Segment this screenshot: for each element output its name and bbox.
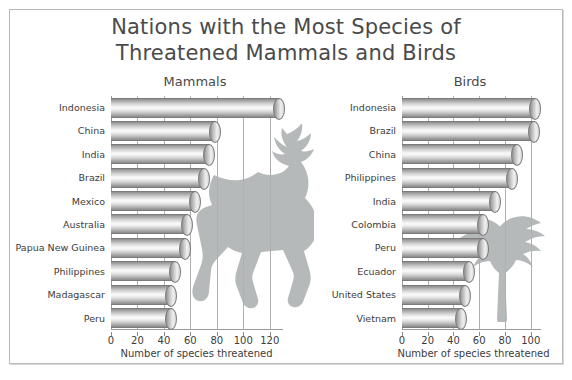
birds-bar [402,121,535,141]
mammals-category-label: Papua New Guinea [10,236,109,259]
birds-panel-heading: Birds [402,74,538,89]
birds-bar-row [402,143,541,166]
birds-bar [402,285,466,305]
birds-category-label: China [300,143,400,166]
mammals-x-axis-ticks: 020406080100120 [111,332,291,346]
birds-category-label: Indonesia [300,96,400,119]
mammals-bar-row [111,119,283,142]
mammals-bar [111,261,176,281]
mammals-category-label: Australia [10,213,109,236]
birds-bar-row [402,307,541,330]
mammals-category-label: Mexico [10,190,109,213]
birds-bar [402,308,462,328]
mammals-category-label: Philippines [10,260,109,283]
birds-category-label: Colombia [300,213,400,236]
mammals-bar-row [111,190,283,213]
mammals-tick-label: 80 [204,335,230,346]
mammals-bar [111,214,188,234]
mammals-tick-label: 60 [177,335,203,346]
mammals-chart-panel: IndonesiaChinaIndiaBrazilMexicoAustralia… [10,96,295,354]
birds-bar [402,168,513,188]
birds-bar [402,191,496,211]
mammals-bar [111,121,216,141]
mammals-bar [111,238,186,258]
birds-tick-label: 40 [440,335,466,346]
mammals-tick-label: 0 [98,335,124,346]
page-title-line2: Threatened Mammals and Birds [0,40,572,66]
page-title: Nations with the Most Species of Threate… [0,14,572,66]
birds-tick-label: 80 [492,335,518,346]
birds-x-axis-ticks: 020406080100 [402,332,550,346]
mammals-category-label: Madagascar [10,283,109,306]
birds-bar [402,98,536,118]
birds-category-label: Peru [300,236,400,259]
birds-bar-row [402,96,541,119]
mammals-bar-row [111,213,283,236]
birds-category-label: Ecuador [300,260,400,283]
mammals-bar [111,144,210,164]
mammals-tick-label: 20 [124,335,150,346]
mammals-category-label: China [10,119,109,142]
mammals-bar-row [111,143,283,166]
mammals-category-label: Indonesia [10,96,109,119]
birds-bar-row [402,260,541,283]
mammals-tick-label: 40 [151,335,177,346]
mammals-category-labels: IndonesiaChinaIndiaBrazilMexicoAustralia… [10,96,109,330]
mammals-category-label: India [10,143,109,166]
birds-chart-panel: IndonesiaBrazilChinaPhilippinesIndiaColo… [300,96,565,354]
mammals-bar [111,168,205,188]
birds-bar-row [402,166,541,189]
birds-category-label: India [300,190,400,213]
mammals-bar-row [111,260,283,283]
chart-page: Nations with the Most Species of Threate… [0,0,572,380]
mammals-bar [111,191,196,211]
mammals-bar [111,98,280,118]
birds-category-label: Brazil [300,119,400,142]
mammals-plot-area [111,96,283,330]
birds-bar-row [402,283,541,306]
mammals-bar-row [111,96,283,119]
birds-bar-row [402,236,541,259]
birds-tick-label: 20 [415,335,441,346]
birds-category-label: United States [300,283,400,306]
mammals-bar-row [111,236,283,259]
mammals-bar [111,285,172,305]
birds-category-label: Vietnam [300,307,400,330]
birds-bar [402,261,470,281]
birds-tick-label: 0 [389,335,415,346]
birds-plot-area [402,96,541,330]
birds-tick-label: 100 [518,335,544,346]
birds-axis-title: Number of species threatened [386,348,561,359]
mammals-tick-label: 120 [257,335,283,346]
mammals-category-label: Peru [10,307,109,330]
birds-bar [402,144,518,164]
mammals-bar-row [111,283,283,306]
mammals-panel-heading: Mammals [110,74,280,89]
birds-bar-row [402,213,541,236]
mammals-tick-label: 100 [230,335,256,346]
birds-tick-label: 60 [466,335,492,346]
mammals-bar-row [111,307,283,330]
birds-category-labels: IndonesiaBrazilChinaPhilippinesIndiaColo… [300,96,400,330]
page-title-line1: Nations with the Most Species of [111,15,461,39]
birds-bar-row [402,119,541,142]
birds-bar [402,238,484,258]
mammals-bar [111,308,172,328]
mammals-axis-title: Number of species threatened [94,348,299,359]
mammals-category-label: Brazil [10,166,109,189]
birds-bar [402,214,484,234]
birds-bar-row [402,190,541,213]
birds-category-label: Philippines [300,166,400,189]
mammals-bar-row [111,166,283,189]
